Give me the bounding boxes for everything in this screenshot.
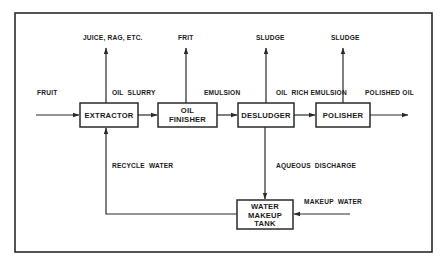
oil-finisher-unit: OIL FINISHER [158, 103, 217, 127]
polisher-label: POLISHER [323, 111, 364, 120]
oil-finisher-label-line-1: OIL [181, 106, 194, 115]
desludger-label: DESLUDGER [241, 111, 291, 120]
juice-rag-label: JUICE, RAG, ETC. [83, 34, 143, 42]
frit-label: FRIT [178, 34, 193, 41]
recycle-water-label: RECYCLE WATER [112, 162, 173, 169]
water-makeup-tank-unit: WATER MAKEUP TANK [237, 200, 293, 229]
oil-finisher-label-line-2: FINISHER [169, 115, 206, 124]
extractor-label: EXTRACTOR [85, 111, 134, 120]
fruit-label: FRUIT [37, 89, 57, 96]
desludger-sludge-label: SLUDGE [256, 34, 285, 41]
emulsion-label: EMULSION [204, 89, 240, 96]
recycle-water-stream-arrow [106, 128, 237, 214]
desludger-unit: DESLUDGER [238, 103, 294, 127]
polisher-unit: POLISHER [316, 103, 370, 127]
polisher-sludge-label: SLUDGE [331, 34, 360, 41]
oil-rich-emulsion-label: OIL RICH EMULSION [276, 89, 347, 96]
diagram-frame [15, 13, 432, 252]
extractor-unit: EXTRACTOR [80, 103, 138, 127]
oil-slurry-label: OIL SLURRY [112, 89, 156, 96]
polished-oil-label: POLISHED OIL [365, 89, 414, 96]
makeup-water-label: MAKEUP WATER [304, 198, 362, 205]
citrus-oil-process-flow-diagram: EXTRACTOR OIL FINISHER DESLUDGER POLISHE… [0, 0, 446, 267]
tank-label-line-3: TANK [254, 219, 276, 228]
aqueous-discharge-label: AQUEOUS DISCHARGE [276, 162, 357, 170]
